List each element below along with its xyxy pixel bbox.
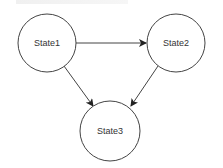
- node-state1-label: State1: [34, 38, 60, 48]
- state-diagram-canvas: State1 State2 State3: [0, 0, 223, 168]
- node-state1[interactable]: State1: [18, 14, 76, 72]
- edge-state1-to-state3: [64, 66, 93, 106]
- node-state2-label: State2: [163, 38, 189, 48]
- node-state2[interactable]: State2: [147, 14, 205, 72]
- edge-state2-to-state3: [131, 66, 158, 106]
- node-state3[interactable]: State3: [80, 101, 140, 161]
- node-state3-label: State3: [97, 126, 123, 136]
